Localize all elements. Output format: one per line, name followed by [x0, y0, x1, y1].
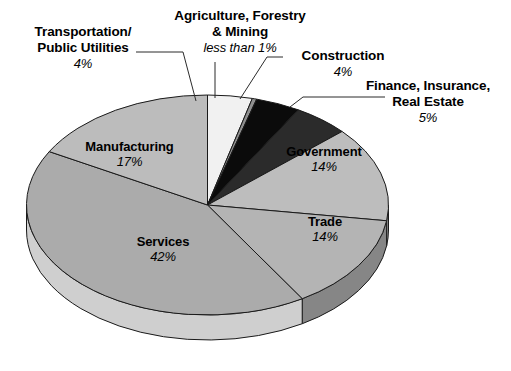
slice-label-government-line1: Government — [263, 144, 385, 159]
slice-label-finance: Finance, Insurance, Real Estate 5% — [352, 78, 504, 125]
slice-label-trade: Trade 14% — [276, 214, 374, 245]
slice-label-trade-line1: Trade — [276, 214, 374, 229]
slice-label-transportation: Transportation/ Public Utilities 4% — [8, 24, 158, 71]
leader-line-construction — [240, 57, 283, 99]
pie-slices — [26, 95, 388, 315]
slice-label-government: Government 14% — [263, 144, 385, 175]
slice-value-construction: 4% — [284, 64, 402, 79]
slice-label-construction: Construction 4% — [284, 48, 402, 79]
slice-label-finance-line1: Finance, Insurance, — [352, 78, 504, 94]
slice-label-construction-line1: Construction — [284, 48, 402, 64]
slice-label-finance-line2: Real Estate — [352, 94, 504, 110]
slice-value-manufacturing: 17% — [52, 154, 207, 169]
slice-label-transportation-line2: Public Utilities — [8, 40, 158, 56]
slice-label-agriculture-line1: Agriculture, Forestry — [150, 8, 330, 24]
slice-label-services-line1: Services — [97, 234, 229, 249]
slice-label-manufacturing-line1: Manufacturing — [52, 139, 207, 154]
slice-value-finance: 5% — [352, 110, 504, 125]
slice-value-trade: 14% — [276, 229, 374, 244]
slice-label-agriculture-line2: & Mining — [150, 24, 330, 40]
slice-value-services: 42% — [97, 249, 229, 264]
slice-label-services: Services 42% — [97, 234, 229, 265]
slice-value-government: 14% — [263, 159, 385, 174]
pie-chart-figure: Transportation/ Public Utilities 4% Agri… — [0, 0, 511, 371]
slice-label-manufacturing: Manufacturing 17% — [52, 139, 207, 170]
slice-value-transportation: 4% — [8, 56, 158, 71]
slice-label-transportation-line1: Transportation/ — [8, 24, 158, 40]
